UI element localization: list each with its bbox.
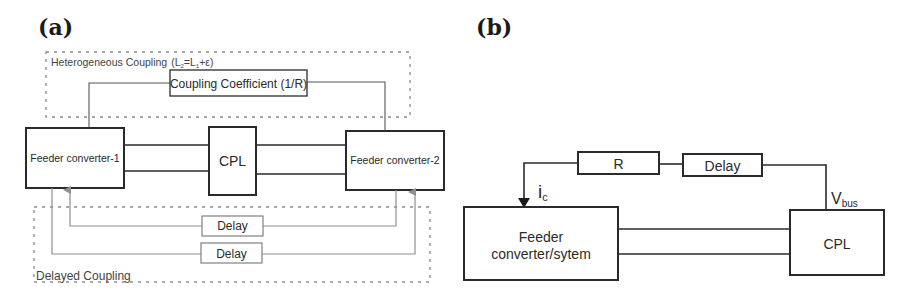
coupling-wire-left (89, 83, 170, 128)
feeder-system-label-line1: Feeder (519, 229, 564, 245)
cpl-label-b: CPL (823, 236, 850, 252)
feeder-converter-2-label: Feeder converter-2 (350, 154, 439, 166)
delay-path-1-right (263, 190, 396, 226)
vbus-wire (762, 165, 826, 210)
delay-label-2: Delay (216, 247, 247, 261)
delay-label-b: Delay (705, 158, 741, 174)
delayed-coupling-label: Delayed Coupling (36, 269, 131, 283)
heterogeneous-coupling-label: Heterogeneous Coupling(L2=L1+ε) (51, 56, 214, 69)
coupling-wire-right (307, 82, 385, 131)
coupling-coefficient-label: Coupling Coefficient (1/R) (170, 77, 307, 91)
current-label: ic (538, 181, 548, 203)
delay-label-1: Delay (217, 219, 248, 233)
feeder-system-label-line2: converter/sytem (491, 246, 591, 262)
panel-b-label: (b) (476, 14, 512, 40)
voltage-label: Vbus (831, 190, 858, 209)
cpl-label-a: CPL (219, 153, 246, 169)
feeder-converter-1-label: Feeder converter-1 (30, 152, 119, 164)
panel-a-label: (a) (38, 14, 73, 40)
delay-path-2-left (52, 188, 201, 254)
resistor-label: R (613, 156, 623, 172)
current-feedback-wire (524, 163, 578, 199)
delay-path-2-right-arrow (262, 192, 415, 254)
panel-b: (b) R Delay ic Vbus Feeder converter/syt… (464, 14, 884, 280)
delay-path-1-left-arrow (70, 190, 202, 226)
panel-a: (a) Heterogeneous Coupling(L2=L1+ε) Coup… (26, 14, 444, 283)
